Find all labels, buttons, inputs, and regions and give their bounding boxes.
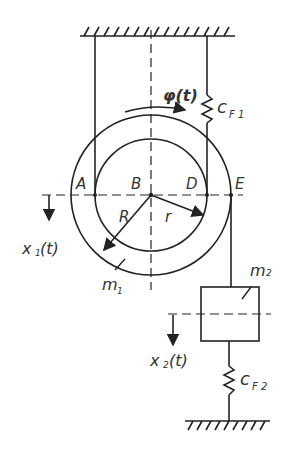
radius-r-arrow	[151, 195, 203, 215]
rotation-arrow	[125, 107, 185, 112]
label-x1: x	[21, 239, 32, 258]
m2-leader	[242, 287, 251, 299]
spring-cf2	[224, 341, 234, 421]
label-b: B	[131, 175, 141, 193]
top-ground-support	[80, 27, 235, 36]
label-a: A	[75, 175, 86, 193]
label-m2-sub: 2	[266, 268, 272, 278]
mechanical-diagram: φ(t) c F 1 A B D E R r x 1 (t) m 1 m 2 x…	[0, 0, 288, 455]
label-m2: m	[250, 261, 266, 280]
label-phi: φ(t)	[163, 86, 198, 105]
label-r: r	[165, 208, 172, 226]
label-x2-arg: (t)	[169, 351, 188, 370]
label-d: D	[186, 175, 198, 193]
label-cf2: c	[240, 368, 250, 389]
label-cf1: c	[217, 96, 227, 117]
label-R: R	[119, 208, 129, 226]
label-m1-sub: 1	[117, 286, 123, 296]
label-x2: x	[149, 351, 160, 370]
label-m1: m	[102, 275, 118, 294]
label-cf1-sub: F 1	[229, 109, 244, 120]
label-x1-arg: (t)	[40, 239, 59, 258]
label-e: E	[235, 175, 245, 193]
spring-cf1	[202, 36, 212, 195]
label-cf2-sub: F 2	[252, 381, 267, 392]
bottom-ground-support	[185, 421, 270, 430]
